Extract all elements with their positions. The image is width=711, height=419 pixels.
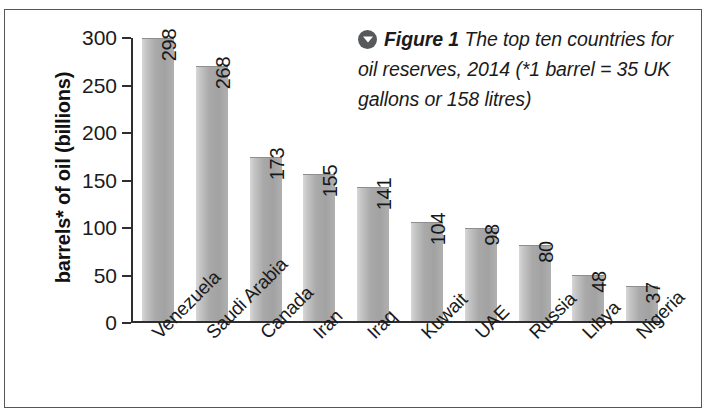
y-axis-tick — [122, 85, 131, 87]
y-axis-tick-label: 300 — [82, 26, 117, 50]
y-axis-tick — [122, 322, 131, 324]
bar-value-label: 173 — [266, 147, 289, 179]
y-axis-tick-label: 100 — [82, 216, 117, 240]
y-axis-spine — [131, 38, 133, 323]
bar-value-label: 141 — [373, 178, 396, 210]
bar-value-label: 104 — [427, 213, 450, 245]
y-axis-tick-label: 250 — [82, 74, 117, 98]
y-axis-tick — [122, 227, 131, 229]
y-axis-title: barrels* of oil (billions) — [52, 38, 75, 318]
bar-value-label: 48 — [588, 272, 611, 294]
y-axis-tick — [122, 132, 131, 134]
y-axis-tick — [122, 37, 131, 39]
bar-value-label: 298 — [158, 29, 181, 61]
bar-value-label: 98 — [481, 224, 504, 246]
bar-value-label: 80 — [535, 241, 558, 263]
y-axis-tick-label: 150 — [82, 169, 117, 193]
bar-value-label: 268 — [212, 57, 235, 89]
y-axis-tick-label: 0 — [105, 311, 117, 335]
y-axis-tick-label: 200 — [82, 121, 117, 145]
y-axis-tick — [122, 275, 131, 277]
y-axis-tick-label: 50 — [94, 264, 117, 288]
bar[interactable]: 298 — [142, 38, 174, 321]
y-axis-tick — [122, 180, 131, 182]
bar[interactable]: 141 — [357, 187, 389, 321]
bar-value-label: 155 — [319, 165, 342, 197]
figure-root: Figure 1 The top ten countries for oil r… — [0, 0, 711, 419]
